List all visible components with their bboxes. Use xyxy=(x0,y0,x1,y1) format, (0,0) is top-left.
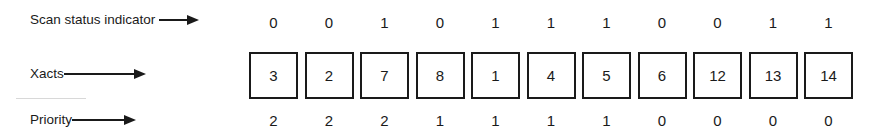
priority-label-row: Priority xyxy=(30,112,136,127)
priority-value: 1 xyxy=(416,112,465,129)
priority-value: 1 xyxy=(582,112,631,129)
priority-label: Priority xyxy=(30,112,72,127)
xact-box: 2 xyxy=(305,52,354,99)
scan-status-value: 1 xyxy=(360,14,409,31)
scan-status-value: 0 xyxy=(693,14,742,31)
scan-status-value: 1 xyxy=(749,14,798,31)
priority-value: 0 xyxy=(804,112,853,129)
xacts-label-row: Xacts xyxy=(30,66,146,81)
right-arrow-icon xyxy=(72,115,136,125)
scan-artifact-line xyxy=(16,98,86,99)
scan-status-value: 1 xyxy=(582,14,631,31)
scan-status-value: 0 xyxy=(305,14,354,31)
scan-status-value: 1 xyxy=(471,14,520,31)
xact-box: 1 xyxy=(471,52,520,99)
priority-value: 2 xyxy=(249,112,298,129)
xact-box: 4 xyxy=(527,52,576,99)
xact-box: 13 xyxy=(749,52,798,99)
scan-status-value: 0 xyxy=(249,14,298,31)
priority-value: 1 xyxy=(527,112,576,129)
priority-row: 2 2 2 1 1 1 1 0 0 0 0 xyxy=(249,112,853,129)
priority-value: 2 xyxy=(360,112,409,129)
xact-box: 12 xyxy=(693,52,742,99)
xact-box: 3 xyxy=(249,52,298,99)
xacts-row: 3 2 7 8 1 4 5 6 12 13 14 xyxy=(249,52,853,99)
xact-box: 14 xyxy=(804,52,853,99)
scan-status-label: Scan status indicator xyxy=(30,12,155,27)
priority-value: 0 xyxy=(638,112,687,129)
scan-status-value: 1 xyxy=(527,14,576,31)
priority-value: 2 xyxy=(305,112,354,129)
xact-box: 7 xyxy=(360,52,409,99)
right-arrow-icon xyxy=(159,15,199,25)
priority-value: 1 xyxy=(471,112,520,129)
xacts-label: Xacts xyxy=(30,66,64,81)
scan-status-value: 1 xyxy=(804,14,853,31)
scan-status-label-row: Scan status indicator xyxy=(30,12,199,27)
scan-status-value: 0 xyxy=(416,14,465,31)
right-arrow-icon xyxy=(64,69,146,79)
scan-status-value: 0 xyxy=(638,14,687,31)
priority-value: 0 xyxy=(693,112,742,129)
scan-status-row: 0 0 1 0 1 1 1 0 0 1 1 xyxy=(249,14,853,31)
xact-box: 5 xyxy=(582,52,631,99)
xact-box: 8 xyxy=(416,52,465,99)
priority-value: 0 xyxy=(749,112,798,129)
xact-box: 6 xyxy=(638,52,687,99)
